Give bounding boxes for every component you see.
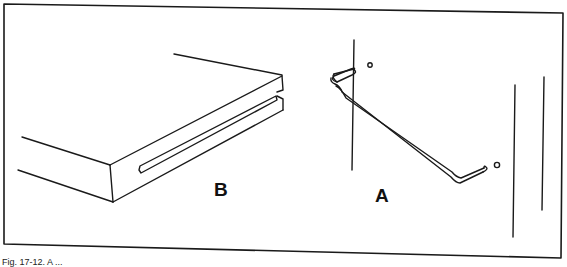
hook-a-drawing (331, 40, 544, 237)
shelf-b-drawing (18, 54, 283, 202)
shelf-label-b: B (214, 180, 228, 199)
figure-frame (4, 4, 563, 258)
hook-label-a: A (375, 186, 389, 205)
figure-caption: Fig. 17-12. A ... (2, 258, 63, 267)
